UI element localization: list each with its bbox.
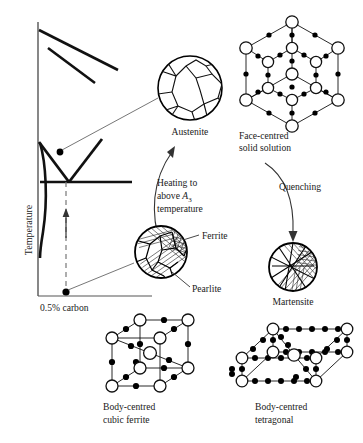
ferrite-pearlite-leader-line xyxy=(68,263,134,290)
quenching-arrow-curve xyxy=(265,163,293,233)
heating-arrowhead xyxy=(167,146,175,158)
quenching-arrowhead xyxy=(289,231,298,242)
pearlite-label: Pearlite xyxy=(192,283,221,294)
phase-diagram: Temperature 0.5% carbon xyxy=(23,22,158,313)
bcc-label-line1: Body-centred xyxy=(103,401,155,412)
heating-label-above-word: above xyxy=(157,190,182,201)
fcc-label-line1: Face-centred xyxy=(239,130,289,141)
quenching-label: Quenching xyxy=(279,181,321,192)
martensite-micrograph: Martensite xyxy=(269,233,327,307)
temperature-axis-label: Temperature xyxy=(23,204,34,255)
bcc-large-atoms xyxy=(106,314,194,392)
heating-label-line2: above A3 xyxy=(157,190,192,204)
austenite-leader-line xyxy=(62,98,158,150)
pearlite-leader-line xyxy=(172,272,190,287)
austenite-micrograph: Austenite xyxy=(158,56,234,137)
bcc-lattice: Body-centred cubic ferrite xyxy=(103,314,194,425)
heating-label-line3: temperature xyxy=(157,203,203,214)
ferrite-pearlite-micrograph: Ferrite Pearlite xyxy=(135,218,228,294)
austenite-circle-outline xyxy=(158,56,222,120)
quenching-process: Quenching xyxy=(265,163,321,242)
martensite-label: Martensite xyxy=(272,296,313,307)
bcc-label-line2: cubic ferrite xyxy=(103,414,150,425)
ferrite-leader-line xyxy=(183,235,199,240)
steel-transformation-diagram: Temperature 0.5% carbon Austenite xyxy=(0,0,363,443)
bct-label-line2: tetragonal xyxy=(255,414,294,425)
fcc-label-line2: solid solution xyxy=(239,142,291,153)
alpha-phase-boundary xyxy=(40,143,46,258)
heating-label-line1: Heating to xyxy=(157,177,197,188)
solidus-line xyxy=(48,48,95,83)
acm-boundary-line xyxy=(69,139,102,182)
carbon-composition-label: 0.5% carbon xyxy=(40,302,89,313)
ferrite-label: Ferrite xyxy=(202,230,228,241)
bct-label-line1: Body-centred xyxy=(255,401,307,412)
bct-lattice: Body-centred tetragonal xyxy=(229,323,353,425)
austenite-label: Austenite xyxy=(172,126,209,137)
heating-direction-arrowhead xyxy=(63,208,70,217)
fcc-lattice: Face-centred solid solution xyxy=(239,16,344,153)
